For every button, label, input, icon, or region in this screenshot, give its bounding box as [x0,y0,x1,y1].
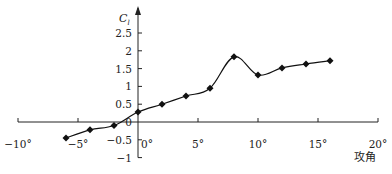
y-axis-arrow-icon [135,6,141,15]
x-tick-label: 0° [141,138,153,150]
x-tick-label: 5° [192,138,204,150]
y-tick-label: −0.5 [107,134,133,146]
y-tick-label: 1.5 [115,63,132,75]
diamond-marker-icon [303,60,310,67]
y-axis-title: Cl [119,12,130,27]
ticks: −10°−5°0°5°10°15°20°−1−0.500.511.522.5 [4,27,387,164]
x-tick-label: 10° [249,138,268,150]
y-tick-label: 2 [125,45,132,57]
diamond-marker-icon [255,72,262,79]
diamond-marker-icon [279,64,286,71]
x-tick-label: −5° [68,138,89,150]
diamond-marker-icon [111,122,118,129]
x-axis-title: 攻角 [354,150,376,164]
x-tick-label: −10° [4,138,31,150]
diamond-marker-icon [327,57,334,64]
axes [18,6,378,158]
diamond-marker-icon [183,93,190,100]
diamond-marker-icon [159,101,166,108]
x-tick-label: 15° [309,138,328,150]
data-curve [66,57,330,138]
y-tick-label: 0.5 [115,98,132,110]
y-tick-label: −1 [117,152,132,164]
y-tick-label: 2.5 [115,27,132,39]
lift-coefficient-chart: −10°−5°0°5°10°15°20°−1−0.500.511.522.5 C… [0,0,392,174]
x-tick-label: 20° [369,138,388,150]
y-tick-label: 1 [125,80,132,92]
diamond-marker-icon [135,109,142,116]
diamond-marker-icon [87,126,94,133]
diamond-marker-icon [231,53,238,60]
